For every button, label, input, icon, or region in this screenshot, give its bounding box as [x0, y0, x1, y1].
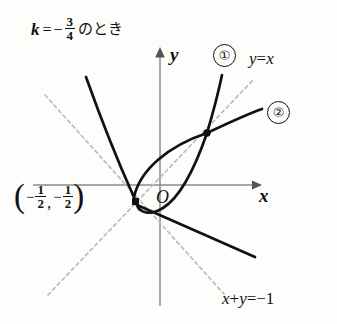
line-yx-rhs: x [266, 49, 274, 68]
line-sum-rhs: −1 [256, 289, 274, 308]
line-sum-equals: = [247, 289, 257, 308]
curve-upper-left-branch [86, 77, 133, 195]
branch-1-label: ① [213, 44, 236, 67]
tangency-point-marker [132, 198, 139, 205]
curve-loop-lower-arc [137, 133, 207, 213]
line-y-equals-x-label: y=x [249, 50, 274, 67]
condition-label: k = − 3 4 のとき [31, 16, 123, 44]
coord-numerator-2: 1 [63, 183, 74, 196]
coord-denominator-2: 2 [63, 196, 74, 210]
condition-japanese-suffix: のとき [78, 22, 123, 37]
line-x-plus-y-label: x+y=−1 [222, 290, 274, 307]
branch-2-label: ② [267, 101, 290, 124]
line-sum-lhs: x [222, 289, 230, 308]
coord-minus-2: − [53, 190, 61, 205]
math-figure: k = − 3 4 のとき y x O ① ② y=x x+y=−1 ( − 1… [0, 0, 337, 324]
curve-lower-right-branch [137, 205, 255, 257]
coord-close-paren: ) [73, 185, 84, 209]
x-axis-label: x [259, 186, 269, 205]
condition-fraction: 3 4 [65, 15, 76, 43]
line-sum-mid: y [239, 289, 247, 308]
condition-variable: k [31, 21, 40, 38]
tangency-point-coordinate-label: ( − 1 2 , − 1 2 ) [14, 184, 84, 212]
line-sum-plus: + [230, 289, 240, 308]
curve-branch-2 [207, 109, 262, 133]
curve-loop-upper-arc [134, 133, 207, 197]
coord-open-paren: ( [14, 185, 25, 209]
coord-minus-1: − [26, 190, 34, 205]
condition-numerator: 3 [65, 15, 76, 28]
curve-branch-1 [207, 75, 222, 133]
line-yx-operator: = [257, 49, 267, 68]
origin-label: O [156, 188, 169, 206]
condition-denominator: 4 [65, 28, 76, 42]
coord-denominator-1: 2 [35, 196, 46, 210]
condition-minus: − [54, 22, 63, 38]
self-intersection-point-marker [203, 129, 210, 136]
condition-equals: = [43, 22, 52, 38]
line-yx-lhs: y [249, 49, 257, 68]
coord-fraction-2: 1 2 [63, 183, 74, 211]
coord-fraction-1: 1 2 [35, 183, 46, 211]
graph-canvas [0, 0, 337, 324]
y-axis-label: y [170, 45, 178, 64]
coord-numerator-1: 1 [35, 183, 46, 196]
coord-comma: , [47, 194, 51, 211]
